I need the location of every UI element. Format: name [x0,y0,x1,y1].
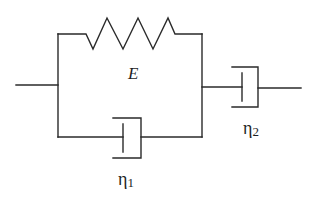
diagram-lines [0,0,314,208]
spring-label: E [128,64,138,84]
dashpot-eta2-label: η2 [243,118,259,139]
spring-icon [58,18,202,49]
rheological-model-diagram: E η1 η2 [0,0,314,208]
eta1-subscript: 1 [127,175,134,190]
dashpot-eta1-label: η1 [118,169,134,190]
dashpot-eta1-icon [58,118,202,158]
eta2-subscript: 2 [252,124,259,139]
dashpot-eta2-icon [202,67,258,107]
eta2-symbol: η [243,118,252,138]
eta1-symbol: η [118,169,127,189]
